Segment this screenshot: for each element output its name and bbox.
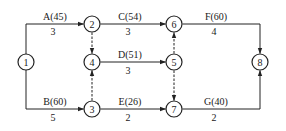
node-2: 2 (84, 16, 100, 32)
node-1-label: 1 (24, 57, 29, 68)
activity-D-name: D(51) (118, 49, 142, 61)
node-6-label: 6 (172, 19, 177, 30)
activity-G-name: G(40) (204, 96, 228, 108)
node-3-label: 3 (90, 104, 95, 115)
network-diagram: 1 2 3 4 5 6 7 8 (0, 0, 286, 131)
activity-labels: A(45) 3 B(60) 5 C(54) 3 D(51) 3 E(26) 2 … (43, 11, 228, 123)
dummy-arrows (92, 33, 174, 101)
node-8: 8 (252, 54, 268, 70)
activity-G-duration: 2 (212, 112, 217, 123)
diagram-svg: 1 2 3 4 5 6 7 8 (0, 0, 286, 131)
activity-C-duration: 3 (126, 26, 131, 37)
node-2-label: 2 (90, 19, 95, 30)
node-4-label: 4 (90, 57, 95, 68)
activity-A-duration: 3 (51, 26, 56, 37)
activity-E-name: E(26) (119, 96, 142, 108)
node-5-label: 5 (172, 57, 177, 68)
activity-E-duration: 2 (126, 112, 131, 123)
activity-F-name: F(60) (205, 11, 227, 23)
node-1: 1 (18, 54, 34, 70)
node-6: 6 (166, 16, 182, 32)
activity-D-duration: 3 (126, 65, 131, 76)
node-5: 5 (166, 54, 182, 70)
node-7-label: 7 (172, 104, 177, 115)
activity-F-duration: 4 (212, 26, 217, 37)
node-3: 3 (84, 101, 100, 117)
activity-B-duration: 5 (51, 112, 56, 123)
activity-C-name: C(54) (118, 11, 141, 23)
activity-B-name: B(60) (43, 96, 66, 108)
arrow-F (183, 24, 261, 54)
node-4: 4 (84, 54, 100, 70)
node-7: 7 (166, 101, 182, 117)
node-8-label: 8 (258, 57, 263, 68)
activity-A-name: A(45) (43, 11, 67, 23)
